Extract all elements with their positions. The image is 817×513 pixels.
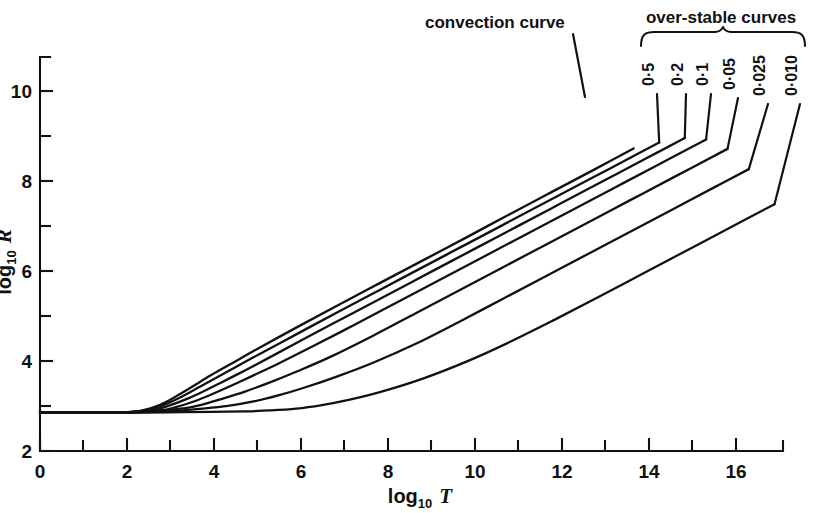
- x-axis-line: [40, 441, 783, 451]
- x-tick-label: 2: [122, 461, 133, 482]
- x-tick-label: 10: [464, 461, 485, 482]
- x-tick-label: 6: [296, 461, 307, 482]
- x-axis-title-var: T: [439, 484, 453, 508]
- y-tick-label: 8: [21, 171, 32, 192]
- x-tick-label: 4: [209, 461, 220, 482]
- overstable-curve: [40, 204, 774, 413]
- curve-series-group: [40, 138, 774, 413]
- x-axis-title-sub: 10: [418, 496, 432, 511]
- axis-frame: [40, 57, 783, 451]
- overstable-curves-label: over-stable curves: [646, 8, 796, 27]
- curve-value-leader-line: [749, 104, 768, 169]
- x-tick-label: 0: [35, 461, 46, 482]
- x-tick-label: 14: [638, 461, 660, 482]
- x-axis-title-main: log: [388, 485, 418, 507]
- x-tick-label: 12: [551, 461, 572, 482]
- curve-value-leader-line: [657, 94, 659, 143]
- convection-curve-leader-line: [573, 34, 585, 97]
- curve-value-label: 0·05: [721, 58, 738, 90]
- x-axis-tick-labels: 0 4 8 12 16 2 6 10 14: [35, 461, 747, 482]
- y-tick-label: 10: [11, 81, 32, 102]
- overstable-curves-annotation: over-stable curves: [641, 8, 805, 46]
- curve-value-label: 0·025: [751, 55, 768, 96]
- x-tick-label: 16: [725, 461, 746, 482]
- curve-value-label: 0·5: [640, 63, 657, 86]
- y-tick-label: 2: [21, 441, 32, 462]
- convection-curve-label: convection curve: [425, 13, 565, 32]
- y-tick-label: 4: [21, 351, 32, 372]
- x-tick-label: 8: [383, 461, 394, 482]
- curve-value-leader-line: [728, 98, 739, 149]
- convection-curve-annotation: convection curve: [425, 13, 585, 97]
- y-axis-title-main: log: [0, 265, 15, 295]
- y-axis-line: [40, 57, 50, 451]
- x-axis-title: log10T: [388, 484, 453, 511]
- chart-canvas: 2 4 6 8 10 0 4: [0, 0, 817, 513]
- y-axis-title-var: R: [0, 229, 16, 244]
- y-axis-title: log10R: [0, 229, 19, 294]
- curve-value-label: 0·010: [783, 55, 800, 96]
- curve-value-label: 0·1: [694, 63, 711, 86]
- curve-value-leader-line: [775, 104, 801, 204]
- x-axis-ticks: [40, 438, 736, 451]
- svg-text:log10R: log10R: [0, 229, 19, 294]
- y-axis-title-sub: 10: [4, 250, 19, 264]
- curve-value-label: 0·2: [669, 63, 686, 86]
- svg-text:log10T: log10T: [388, 484, 453, 511]
- y-axis-ticks: [40, 91, 53, 451]
- curve-value-leader-line: [685, 94, 686, 138]
- convection-curve: [40, 148, 634, 412]
- y-tick-label: 6: [21, 261, 32, 282]
- overstable-curves-bracket: [641, 27, 805, 46]
- figure-container: 2 4 6 8 10 0 4: [0, 0, 817, 513]
- curve-value-leader-line: [706, 94, 711, 139]
